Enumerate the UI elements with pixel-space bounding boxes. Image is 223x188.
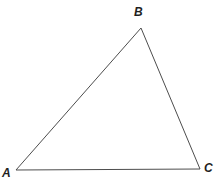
triangle-diagram: A B C <box>0 0 223 188</box>
vertex-label-b: B <box>134 5 143 19</box>
vertex-label-a: A <box>2 166 11 180</box>
diagram-svg <box>0 0 223 188</box>
triangle-outline <box>16 28 200 170</box>
vertex-label-c: C <box>204 161 213 175</box>
